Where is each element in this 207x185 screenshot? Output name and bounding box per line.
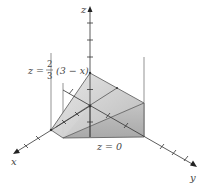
y-axis-label: y bbox=[189, 172, 196, 183]
svg-text:(3 − x): (3 − x) bbox=[56, 65, 89, 76]
x-axis-label: x bbox=[11, 156, 17, 167]
bottom-plane-label: z = 0 bbox=[96, 141, 122, 152]
svg-text:2: 2 bbox=[47, 59, 52, 69]
solid-diagram: z x y z = 2 3 (3 − x) z = 0 bbox=[0, 0, 207, 185]
top-plane-label: z = 2 3 (3 − x) bbox=[27, 59, 89, 81]
x-arrow-icon bbox=[13, 149, 20, 155]
svg-text:z =: z = bbox=[27, 65, 44, 76]
y-arrow-icon bbox=[190, 161, 197, 168]
svg-text:3: 3 bbox=[47, 71, 52, 81]
z-arrow-icon bbox=[88, 6, 93, 12]
z-axis-label: z bbox=[80, 4, 87, 15]
